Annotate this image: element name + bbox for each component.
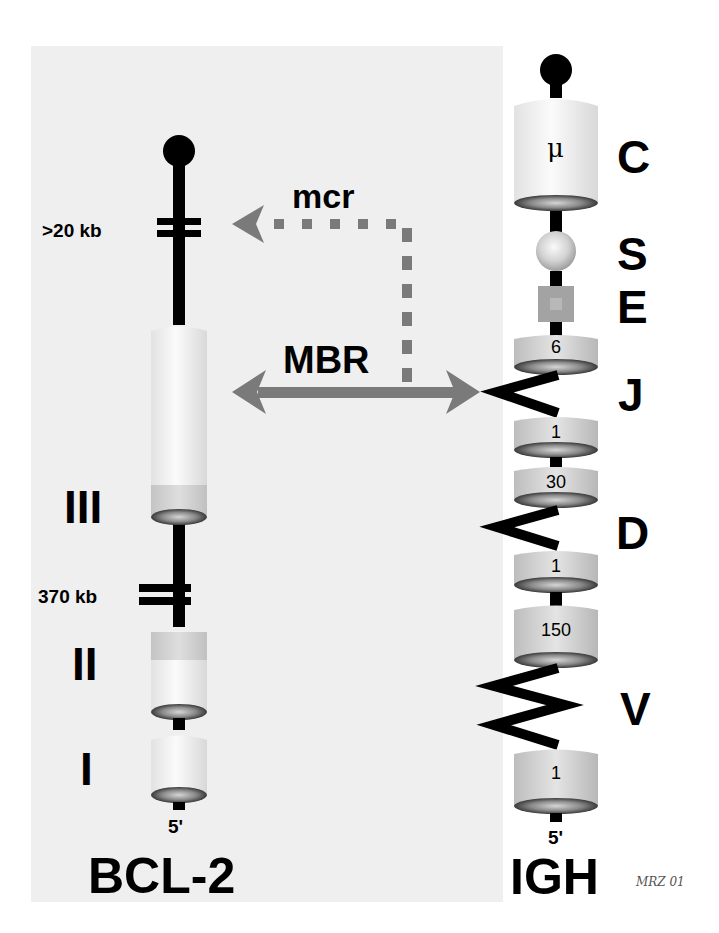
- igh-v-segment-bottom: 1: [514, 750, 598, 815]
- igh-d-segment-bottom: 1: [514, 551, 598, 593]
- igh-v-segment-top: 150: [514, 606, 598, 669]
- igh-j-count-top: 6: [551, 337, 561, 357]
- igh-gene-label: IGH: [510, 849, 599, 905]
- igh-v-count-top: 150: [541, 620, 571, 640]
- bcl2-gap-marker-mid-icon: [139, 584, 191, 592]
- igh-v-count-bottom: 1: [551, 763, 561, 783]
- igh-label-j: J: [618, 369, 644, 421]
- mcr-label: mcr: [292, 177, 354, 215]
- igh-v-zigzag-icon: [494, 668, 565, 745]
- bcl2-exon-iii: [151, 327, 207, 526]
- bcl2-exon-label-i: I: [80, 743, 93, 795]
- igh-label-c: C: [617, 131, 650, 183]
- mbr-label: MBR: [283, 339, 370, 381]
- exon-disc-icon: [151, 704, 207, 720]
- igh-d-zigzag-icon: [497, 510, 558, 546]
- igh-label-s: S: [617, 228, 648, 280]
- igh-constant-mu: μ: [514, 99, 598, 211]
- igh-five-prime-label: 5': [548, 827, 563, 848]
- bcl2-telomere-cap-icon: [163, 135, 195, 167]
- igh-label-v: V: [620, 683, 651, 735]
- igh-mu-symbol: μ: [547, 133, 564, 163]
- bcl2-igh-translocation-diagram: >20 kb III 370 kb II I 5' BCL-2: [0, 0, 719, 933]
- igh-locus: μ C S E 6 J 1 30 D: [494, 54, 651, 905]
- igh-j-zigzag-icon: [497, 375, 558, 413]
- bcl2-gene-label: BCL-2: [88, 848, 235, 904]
- igh-j-segment-bottom: 1: [514, 417, 598, 458]
- segment-disc-icon: [514, 577, 598, 593]
- exon-disc-icon: [151, 787, 207, 803]
- segment-disc-icon: [514, 442, 598, 458]
- figure-background: [31, 46, 503, 902]
- segment-disc-icon: [514, 798, 598, 814]
- igh-label-d: D: [616, 507, 649, 559]
- bcl2-exon-ii: [151, 632, 207, 721]
- bcl2-gap-mid-label: 370 kb: [38, 586, 97, 607]
- igh-d-segment-top: 30: [514, 467, 598, 508]
- bcl2-exon-label-ii: II: [72, 638, 98, 690]
- igh-j-count-bottom: 1: [551, 422, 561, 442]
- bcl2-exon-label-iii: III: [64, 481, 102, 533]
- bcl2-gap-marker-top-icon: [157, 218, 201, 225]
- exon-disc-icon: [151, 509, 207, 525]
- bcl2-backbone-top: [173, 155, 185, 325]
- igh-d-count-top: 30: [546, 472, 566, 492]
- bcl2-gap-top-label: >20 kb: [42, 220, 102, 241]
- segment-disc-icon: [514, 195, 598, 211]
- igh-j-segment-top: 6: [514, 335, 598, 375]
- igh-d-count-bottom: 1: [551, 556, 561, 576]
- artist-signature: MRZ 01: [635, 875, 685, 889]
- igh-label-e: E: [617, 281, 648, 333]
- bcl2-five-prime-label: 5': [168, 816, 183, 837]
- igh-switch-region-sphere: [536, 231, 576, 271]
- bcl2-exon-i: [151, 736, 207, 804]
